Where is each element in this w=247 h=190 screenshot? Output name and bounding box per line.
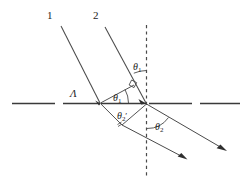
path-difference-tick [118, 122, 123, 127]
refracted-ray-1-arrow [178, 153, 188, 159]
grating-period-label: Λ [70, 88, 77, 99]
arc-theta-1-inner [125, 90, 129, 104]
refracted-ray-1 [122, 125, 183, 157]
ray-2-label: 2 [93, 10, 99, 21]
theta-1-upper-subscript: 1 [138, 66, 142, 74]
theta-1-inner-subscript: 1 [118, 97, 122, 105]
incident-ray-1 [61, 26, 100, 103]
theta-1-inner-label: θ1 [113, 93, 122, 105]
diagram-canvas [0, 0, 247, 190]
theta-2-outer-label: θ2 [155, 122, 164, 134]
optics-diagram-figure: 1 2 Λ θ1 θ1 θ2′ θ2 [0, 0, 247, 190]
theta-1-upper-label: θ1 [133, 62, 142, 74]
theta-2-outer-subscript: 2 [160, 126, 164, 134]
theta-2-prime-mark: ′ [125, 111, 127, 121]
ray-1-label: 1 [47, 10, 53, 21]
theta-2-prime-label: θ2′ [117, 111, 127, 123]
right-angle-marker [129, 80, 137, 88]
